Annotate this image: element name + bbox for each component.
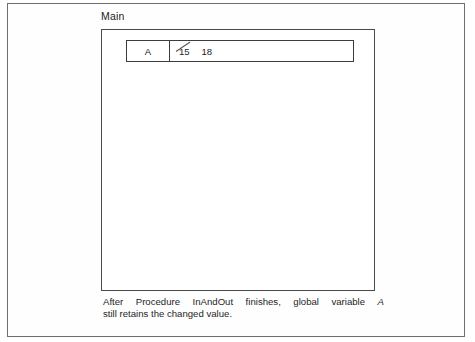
variable-name-cell: A	[127, 41, 170, 61]
figure-outer-frame: Main A 15 18 After Procedure InAndOut fi…	[7, 3, 465, 337]
new-value: 18	[202, 46, 213, 57]
caption-line-1-text: After Procedure InAndOut finishes, globa…	[103, 296, 365, 307]
old-value-struck-through: 15	[178, 46, 191, 57]
main-scope-label: Main	[101, 10, 125, 23]
caption-variable-name: A	[378, 296, 384, 307]
caption-line-2: still retains the changed value.	[103, 308, 384, 320]
variable-value-cell: 15 18	[170, 41, 353, 61]
main-memory-box: A 15 18	[101, 29, 375, 291]
variable-table: A 15 18	[126, 40, 354, 62]
figure-caption: After Procedure InAndOut finishes, globa…	[103, 296, 384, 319]
caption-line-1: After Procedure InAndOut finishes, globa…	[103, 296, 384, 308]
